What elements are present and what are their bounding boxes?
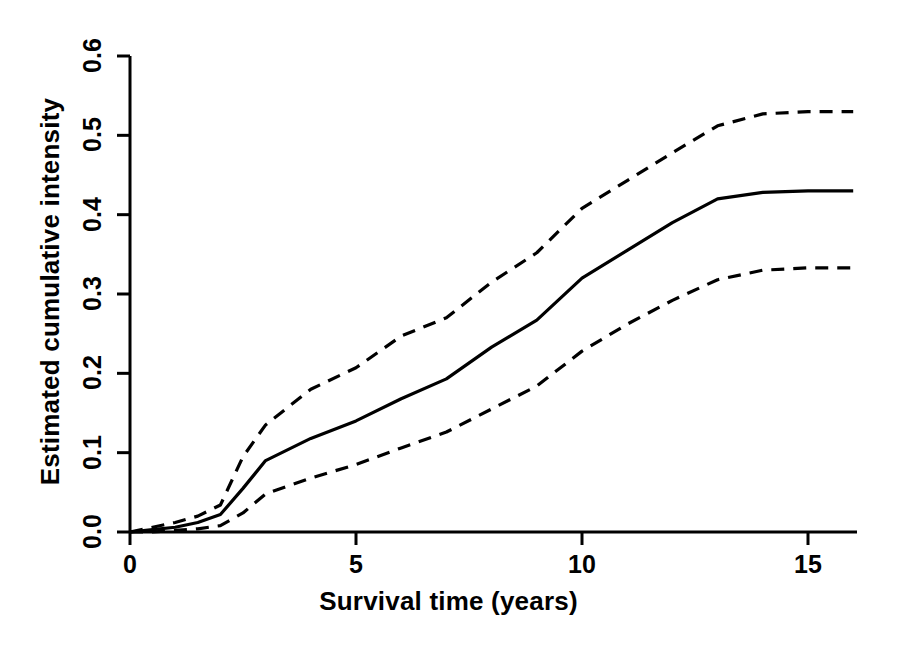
y-tick-label: 0.6 <box>70 43 114 68</box>
chart-figure: 051015 0.00.10.20.30.40.50.6 Survival ti… <box>0 0 897 657</box>
y-tick-label: 0.4 <box>70 202 114 227</box>
y-tick-label: 0.3 <box>70 281 114 306</box>
x-tick-label: 15 <box>794 552 822 577</box>
y-axis-label: Estimated cumulative intensity <box>35 82 66 502</box>
series-line-estimate <box>130 191 853 532</box>
x-tick-label: 10 <box>568 552 596 577</box>
y-tick-label: 0.1 <box>70 440 114 465</box>
y-axis-ticks <box>117 56 130 532</box>
x-axis-label: Survival time (years) <box>0 586 897 617</box>
y-tick-label: 0.2 <box>70 360 114 385</box>
y-tick-label: 0.5 <box>70 122 114 147</box>
data-series-group <box>130 112 853 532</box>
series-line-upper-ci <box>130 112 853 532</box>
y-tick-label: 0.0 <box>70 519 114 544</box>
x-tick-label: 5 <box>349 552 363 577</box>
x-tick-label: 0 <box>123 552 137 577</box>
x-axis-ticks <box>130 532 808 545</box>
